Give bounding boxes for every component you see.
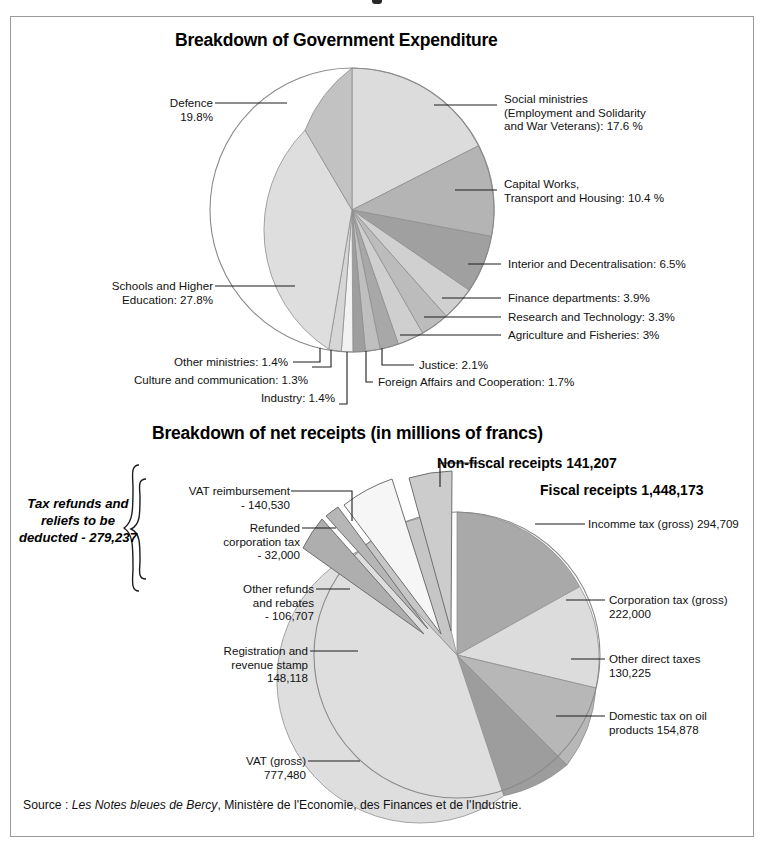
source-title: Les Notes bleues de Bercy: [72, 798, 218, 812]
label-vat-reimbursement: VAT reimbursement - 140,530: [130, 484, 290, 511]
label-foreign-affairs: Foreign Affairs and Cooperation: 1.7%: [378, 375, 708, 389]
expenditure-chart-title: Breakdown of Government Expenditure: [175, 30, 498, 51]
label-domestic-oil: Domestic tax on oil products 154,878: [609, 709, 766, 736]
label-other-refunds: Other refunds and rebates - 106,707: [130, 582, 314, 623]
label-capital-works: Capital Works, Transport and Housing: 10…: [504, 177, 754, 204]
label-fiscal-receipts: Fiscal receipts 1,448,173: [540, 482, 703, 498]
label-other-direct-taxes: Other direct taxes 130,225: [609, 652, 766, 679]
label-agriculture: Agriculture and Fisheries: 3%: [508, 328, 758, 342]
figure-root: Breakdown of Government Expenditure Defe…: [0, 0, 766, 856]
label-non-fiscal-receipts: Non-fiscal receipts 141,207: [437, 455, 617, 471]
label-tax-refunds-brace: Tax refunds and reliefs to be deducted -…: [18, 495, 138, 546]
label-interior: Interior and Decentralisation: 6.5%: [508, 257, 758, 271]
label-justice: Justice: 2.1%: [419, 358, 619, 372]
label-vat-gross: VAT (gross) 777,480: [130, 754, 306, 781]
receipts-chart-title: Breakdown of net receipts (in millions o…: [152, 423, 543, 444]
label-defence: Defence 19.8%: [60, 96, 213, 123]
source-prefix: Source :: [23, 798, 72, 812]
page-marker: [372, 0, 382, 4]
source-suffix: , Ministère de l'Economie, des Finances …: [217, 798, 521, 812]
label-industry: Industry: 1.4%: [160, 391, 335, 405]
label-research: Research and Technology: 3.3%: [508, 310, 758, 324]
label-finance: Finance departments: 3.9%: [508, 291, 758, 305]
label-culture: Culture and communication: 1.3%: [80, 373, 308, 387]
label-refunded-corporation-tax: Refunded corporation tax - 32,000: [130, 521, 300, 562]
label-social-ministries: Social ministries (Employment and Solida…: [504, 92, 754, 133]
label-corporation-tax: Corporation tax (gross) 222,000: [609, 593, 766, 620]
label-income-tax: Incomme tax (gross) 294,709: [588, 517, 766, 531]
label-schools: Schools and Higher Education: 27.8%: [40, 279, 213, 306]
source-note: Source : Les Notes bleues de Bercy, Mini…: [23, 798, 522, 812]
label-other-ministries: Other ministries: 1.4%: [110, 355, 288, 369]
label-registration: Registration and revenue stamp 148,118: [130, 644, 308, 685]
